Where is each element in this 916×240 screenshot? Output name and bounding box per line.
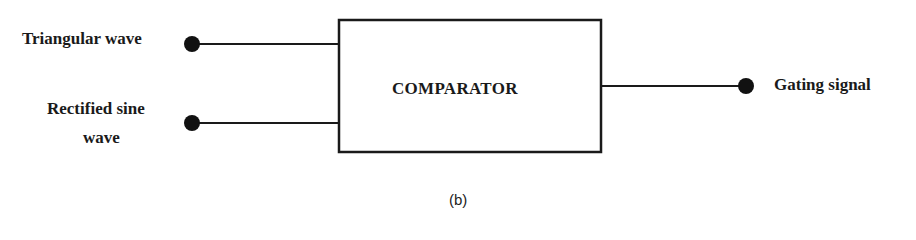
triangular-wave-terminal-dot <box>184 36 200 52</box>
figure-caption: (b) <box>449 192 467 207</box>
triangular-wave-label: Triangular wave <box>22 30 142 47</box>
gating-signal-terminal-dot <box>738 78 754 94</box>
comparator-label: COMPARATOR <box>392 80 518 97</box>
rectified-sine-terminal-dot <box>184 115 200 131</box>
rectified-sine-label-line1: Rectified sine <box>47 100 145 117</box>
gating-signal-label: Gating signal <box>774 76 871 93</box>
rectified-sine-label-line2: wave <box>83 129 120 146</box>
